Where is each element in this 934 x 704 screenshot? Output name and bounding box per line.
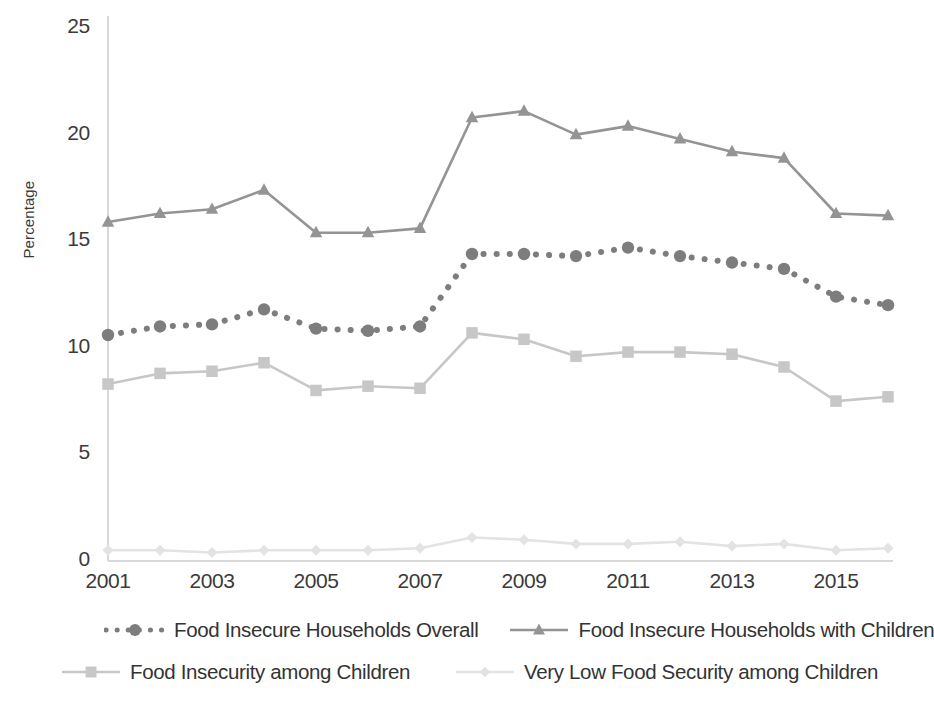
- legend-marker-diamond-icon: [454, 661, 516, 683]
- data-point: [831, 545, 842, 556]
- data-point: [258, 183, 271, 194]
- data-point: [571, 538, 582, 549]
- data-point: [622, 241, 634, 253]
- series-2: [102, 327, 894, 407]
- x-tick-label: 2001: [68, 569, 148, 593]
- x-tick-label: 2007: [380, 569, 460, 593]
- data-point: [363, 545, 374, 556]
- data-point: [674, 250, 686, 262]
- legend-item-food-insecure-households-with-children[interactable]: Food Insecure Households with Children: [508, 610, 934, 650]
- data-point: [480, 667, 490, 677]
- legend-marker-square-icon: [60, 661, 122, 683]
- series-line: [108, 248, 888, 335]
- y-tick-label: 15: [48, 227, 90, 251]
- data-point: [362, 380, 374, 392]
- data-point: [518, 104, 531, 115]
- data-point: [519, 534, 530, 545]
- data-point: [154, 320, 166, 332]
- data-point: [518, 248, 530, 260]
- legend-label: Food Insecurity among Children: [130, 660, 410, 684]
- y-tick-label: 0: [48, 547, 90, 571]
- data-point: [415, 543, 426, 554]
- data-point: [674, 346, 686, 358]
- x-tick-label: 2015: [796, 569, 876, 593]
- y-tick-label: 10: [48, 334, 90, 358]
- series-line: [108, 333, 888, 401]
- data-point: [466, 327, 478, 339]
- data-point: [310, 322, 322, 334]
- x-tick-label: 2013: [692, 569, 772, 593]
- data-point: [622, 119, 635, 130]
- data-point: [778, 361, 790, 373]
- data-point: [155, 545, 166, 556]
- data-point: [727, 541, 738, 552]
- data-point: [259, 545, 270, 556]
- data-point: [882, 391, 894, 403]
- legend-label: Food Insecure Households with Children: [578, 618, 934, 642]
- data-point: [883, 543, 894, 554]
- y-tick-label: 20: [48, 121, 90, 145]
- data-point: [518, 334, 530, 346]
- data-point: [570, 351, 582, 363]
- data-point: [362, 325, 374, 337]
- data-point: [103, 545, 114, 556]
- legend-label: Food Insecure Households Overall: [174, 618, 478, 642]
- data-point: [570, 250, 582, 262]
- data-point: [414, 383, 426, 395]
- data-point: [311, 545, 322, 556]
- data-point: [310, 385, 322, 397]
- data-point: [778, 263, 790, 275]
- series-line: [108, 111, 888, 233]
- data-point: [882, 299, 894, 311]
- data-point: [467, 532, 478, 543]
- data-point: [86, 667, 97, 678]
- data-point: [726, 348, 738, 360]
- series-line: [108, 538, 888, 553]
- y-axis-title: Percentage: [20, 235, 37, 259]
- data-point: [207, 547, 218, 558]
- data-point: [206, 318, 218, 330]
- data-point: [154, 368, 166, 380]
- legend-marker-circle-icon: [104, 619, 166, 641]
- data-point: [779, 538, 790, 549]
- plot-area: [0, 0, 898, 600]
- x-tick-label: 2011: [588, 569, 668, 593]
- chart-canvas: [0, 0, 898, 600]
- legend-label: Very Low Food Security among Children: [524, 660, 878, 684]
- x-tick-label: 2005: [276, 569, 356, 593]
- data-point: [258, 357, 270, 369]
- series-0: [102, 241, 894, 341]
- x-tick-label: 2003: [172, 569, 252, 593]
- data-point: [830, 290, 842, 302]
- legend-row-1: Food Insecure Households Overall Food In…: [0, 610, 898, 650]
- legend-item-food-insecure-households-overall[interactable]: Food Insecure Households Overall: [104, 610, 478, 650]
- data-point: [726, 256, 738, 268]
- series-1: [102, 104, 895, 237]
- data-point: [129, 624, 141, 636]
- data-point: [622, 346, 634, 358]
- x-tick-label: 2009: [484, 569, 564, 593]
- y-tick-label: 5: [48, 440, 90, 464]
- data-point: [258, 303, 270, 315]
- legend-item-food-insecurity-among-children[interactable]: Food Insecurity among Children: [60, 652, 410, 692]
- legend-row-2: Food Insecurity among Children Very Low …: [0, 652, 898, 692]
- series-3: [103, 532, 894, 558]
- data-point: [675, 536, 686, 547]
- data-point: [414, 320, 426, 332]
- data-point: [623, 538, 634, 549]
- chart-legend: Food Insecure Households Overall Food In…: [0, 606, 898, 702]
- data-point: [414, 222, 427, 233]
- data-point: [206, 366, 218, 378]
- legend-item-very-low-food-security-among-children[interactable]: Very Low Food Security among Children: [454, 652, 878, 692]
- legend-marker-triangle-icon: [508, 619, 570, 641]
- data-point: [102, 378, 114, 390]
- data-point: [830, 395, 842, 407]
- data-point: [102, 329, 114, 341]
- y-tick-label: 25: [48, 14, 90, 38]
- data-point: [466, 248, 478, 260]
